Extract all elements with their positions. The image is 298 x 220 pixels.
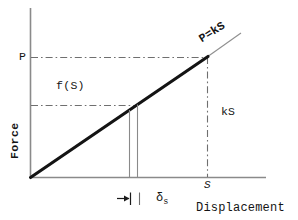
force-displacement-diagram: Force Displacement P S f(S) kS P=kS δs xyxy=(0,0,298,220)
x-axis-title: Displacement xyxy=(196,202,285,214)
annotation-f-of-s: f(S) xyxy=(56,80,85,92)
delta-subscript: s xyxy=(163,197,168,207)
annotation-ks: kS xyxy=(221,106,235,118)
annotation-delta-s: δs xyxy=(156,192,168,207)
diagram-canvas xyxy=(0,0,298,220)
x-tick-label-s: S xyxy=(204,180,211,191)
y-tick-label-p: P xyxy=(19,51,26,63)
equation-line-main xyxy=(31,57,209,178)
y-axis-title: Force xyxy=(9,116,21,166)
delta-dimension-arrow-head xyxy=(124,195,130,201)
